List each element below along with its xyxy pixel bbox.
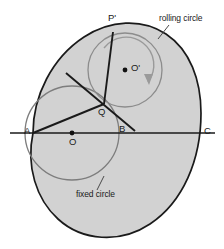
diagram-canvas [0, 0, 224, 249]
label-rolling-circle: rolling circle [159, 14, 202, 23]
point-marker-o-prime [123, 68, 128, 73]
cardioid-diagram: rolling circle fixed circle P' O' Q A O … [0, 0, 224, 249]
label-point-a: A [24, 126, 30, 136]
label-point-o-prime: O' [131, 63, 140, 73]
cardioid-outline [31, 23, 201, 237]
label-point-b: B [119, 124, 125, 134]
label-point-q: Q [98, 107, 105, 117]
label-point-o: O [69, 137, 76, 147]
label-point-p-prime: P' [108, 13, 116, 23]
label-point-c: C [204, 126, 211, 136]
point-marker-o [70, 131, 75, 136]
label-fixed-circle: fixed circle [76, 190, 115, 199]
